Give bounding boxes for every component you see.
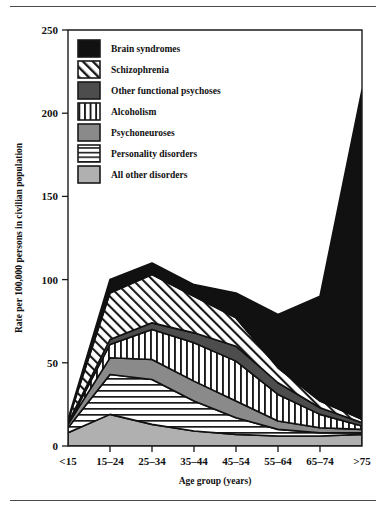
- legend-swatch: [78, 145, 100, 162]
- x-tick-label: 15–24: [96, 455, 124, 467]
- bottom-rule: [10, 500, 376, 501]
- stacked-area-chart: 050100150200250 <1515–2425–3435–4445–545…: [0, 0, 386, 509]
- top-rule: [10, 6, 376, 7]
- legend-swatch: [78, 124, 100, 141]
- legend-label: Schizophrenia: [111, 65, 169, 75]
- y-axis: 050100150200250: [42, 24, 69, 452]
- y-tick-label: 100: [42, 274, 59, 286]
- y-tick-label: 200: [42, 107, 59, 119]
- x-tick-label: 25–34: [138, 455, 166, 467]
- y-tick-label: 50: [47, 357, 59, 369]
- legend-swatch: [78, 82, 100, 99]
- x-tick-label: >75: [353, 455, 371, 467]
- legend-swatch: [78, 166, 100, 183]
- legend-swatch: [78, 61, 100, 78]
- x-tick-label: 45–54: [222, 455, 250, 467]
- legend-label: Psychoneuroses: [111, 128, 175, 138]
- x-tick-label: <15: [59, 455, 77, 467]
- x-axis-title: Age group (years): [179, 476, 252, 487]
- x-tick-label: 65–74: [306, 455, 334, 467]
- x-tick-label: 35–44: [180, 455, 208, 467]
- legend-label: Other functional psychoses: [111, 86, 221, 96]
- legend-label: All other disorders: [111, 170, 188, 180]
- x-tick-label: 55–64: [264, 455, 292, 467]
- y-tick-label: 150: [42, 190, 59, 202]
- y-tick-label: 250: [42, 24, 59, 36]
- y-tick-label: 0: [53, 440, 59, 452]
- y-axis-title: Rate per 100,000 persons in civilian pop…: [14, 142, 24, 333]
- legend-label: Alcoholism: [111, 107, 156, 117]
- legend-swatch: [78, 40, 100, 57]
- legend-label: Personality disorders: [111, 149, 198, 159]
- x-axis: <1515–2425–3435–4445–5455–6465–74>75: [59, 446, 371, 467]
- figure-container: 050100150200250 <1515–2425–3435–4445–545…: [0, 0, 386, 509]
- legend-swatch: [78, 103, 100, 120]
- legend-label: Brain syndromes: [111, 44, 181, 54]
